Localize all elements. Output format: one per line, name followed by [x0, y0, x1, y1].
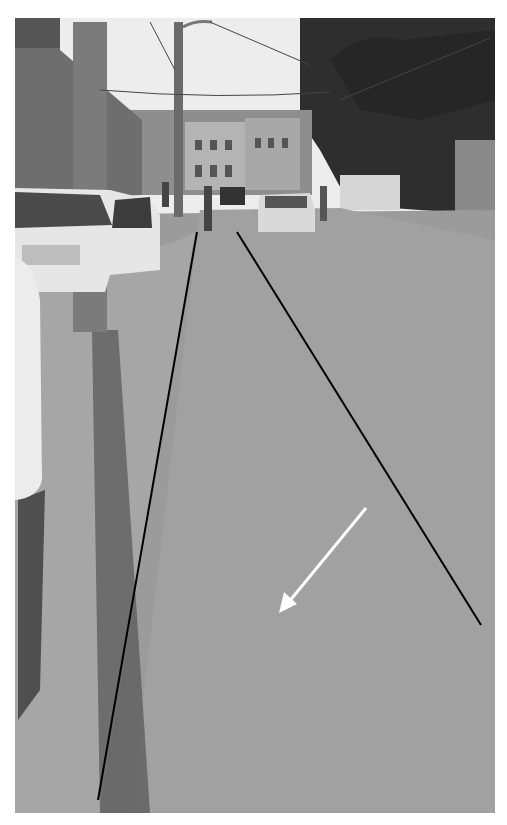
distant-car-window	[265, 196, 307, 208]
parked-car-2	[15, 258, 42, 500]
white-wall	[340, 175, 400, 210]
car-windshield	[15, 192, 112, 228]
pedestrian	[204, 186, 212, 231]
building-roof	[15, 18, 60, 48]
pedestrian-2	[320, 186, 327, 221]
building-facade-2	[245, 118, 300, 190]
dark-car	[220, 187, 245, 205]
street-scene	[15, 18, 495, 813]
building-facade	[185, 122, 245, 190]
pedestrian-3	[162, 182, 169, 207]
car-open-door-window	[112, 197, 152, 228]
car-headlights	[22, 245, 80, 265]
utility-pole-distant	[174, 22, 183, 217]
street-photo	[15, 18, 495, 813]
